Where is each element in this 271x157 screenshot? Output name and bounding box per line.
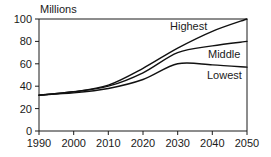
y-tick-label: 40 [20, 80, 32, 92]
series-label-middle: Middle [208, 48, 240, 60]
y-axis-ticks [35, 19, 39, 131]
x-axis-ticks [39, 131, 247, 135]
x-tick-label: 2000 [61, 137, 85, 149]
y-tick-label: 60 [20, 58, 32, 70]
x-tick-label: 2010 [96, 137, 120, 149]
population-projection-line-chart: Millions 100 80 60 40 20 0 1990 2000 201… [0, 0, 271, 157]
x-tick-label: 2020 [131, 137, 155, 149]
x-tick-label: 2040 [200, 137, 224, 149]
series-label-lowest: Lowest [207, 69, 242, 81]
x-axis-tick-labels: 1990 2000 2010 2020 2030 2040 2050 [27, 137, 259, 149]
y-tick-label: 20 [20, 103, 32, 115]
series-label-highest: Highest [170, 20, 207, 32]
x-tick-label: 1990 [27, 137, 51, 149]
y-axis-tick-labels: 100 80 60 40 20 0 [14, 13, 32, 137]
series-labels: Highest Middle Lowest [170, 20, 242, 81]
chart-container: Millions 100 80 60 40 20 0 1990 2000 201… [0, 0, 271, 157]
y-tick-label: 80 [20, 35, 32, 47]
x-tick-label: 2030 [165, 137, 189, 149]
y-axis-unit-label: Millions [40, 3, 77, 15]
y-tick-label: 0 [26, 125, 32, 137]
x-tick-label: 2050 [235, 137, 259, 149]
y-tick-label: 100 [14, 13, 32, 25]
